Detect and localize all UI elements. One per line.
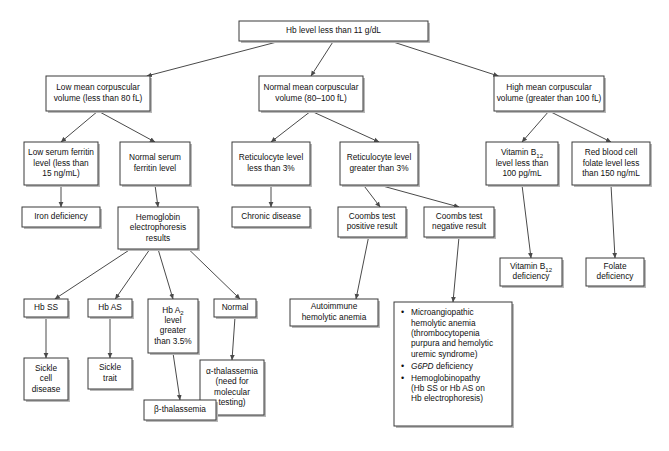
node-text-line: Hb level less than 11 g/dL	[286, 25, 381, 35]
node-root: Hb level less than 11 g/dL	[239, 21, 430, 43]
node-text-line: testing)	[218, 397, 245, 407]
node-text-line: (Hb SS or Hb AS on	[411, 383, 485, 393]
connector-hb_electro-to-hb_as	[115, 249, 150, 299]
node-text-line: Red blood cell	[585, 147, 638, 157]
connector-normal_mcv-to-retic_low	[271, 111, 311, 142]
node-text-line: Hemoglobin	[136, 212, 181, 222]
node-text-line: β-thalassemia	[154, 404, 206, 414]
node-text-line: electrophoresis	[130, 222, 186, 232]
node-folate_def: Folatedeficiency	[586, 258, 646, 288]
connector-root-to-high_mcv	[390, 41, 498, 76]
node-text-line: than 150 ng/mL	[582, 168, 640, 178]
connector-root-to-low_mcv	[147, 41, 281, 76]
connector-high_mcv-to-rbc_folate_low	[549, 111, 611, 142]
node-text-line: volume (less than 80 fL)	[54, 93, 143, 103]
flowchart-canvas: Hb level less than 11 g/dLLow mean corpu…	[0, 0, 669, 451]
node-text-line: Normal mean corpuscular	[264, 82, 359, 92]
node-sickle_cell: Sicklecelldisease	[24, 358, 70, 402]
node-text-line: folate level less	[583, 158, 640, 168]
node-coombs_neg_causes: •Microangiopathichemolytic anemia(thromb…	[394, 302, 514, 428]
node-hb_electro: Hemoglobinelectrophoresisresults	[118, 207, 200, 251]
node-text-line: purpura and hemolytic	[411, 338, 493, 348]
node-text-line: 100 pg/mL	[502, 168, 542, 178]
connector-hb_electro-to-hb_a2	[158, 249, 173, 299]
connector-normal_electro-to-alpha_thal	[232, 317, 235, 360]
node-text-line: level	[164, 315, 181, 325]
node-text-line: (thrombocytopenia	[411, 328, 480, 338]
node-b12_low: Vitamin B12level less than100 pg/mL	[486, 142, 560, 187]
connector-hb_electro-to-normal_electro	[188, 249, 240, 299]
node-high_mcv: High mean corpuscularvolume (greater tha…	[494, 76, 606, 113]
node-text-line: Low mean corpuscular	[56, 82, 140, 92]
bullet-dot-icon: •	[401, 361, 404, 371]
node-b12_def: Vitamin B12deficiency	[500, 258, 564, 288]
connector-retic_high-to-coombs_neg	[379, 185, 459, 207]
node-hb_ss: Hb SS	[24, 299, 70, 319]
node-text-line: G6PD deficiency	[411, 361, 474, 371]
node-iron_def: Iron deficiency	[22, 207, 102, 229]
node-coombs_neg: Coombs testnegative result	[424, 207, 496, 239]
node-text-line: Coombs test	[436, 211, 483, 221]
node-chronic_disease: Chronic disease	[232, 207, 312, 229]
node-text-line: Iron deficiency	[34, 211, 88, 221]
node-sickle_trait: Sickletrait	[88, 358, 134, 391]
node-text-line: Chronic disease	[241, 211, 301, 221]
node-normal_ferritin: Normal serumferritin level	[120, 142, 192, 187]
node-text-line: Microangiopathic	[411, 307, 474, 317]
connector-low_mcv-to-low_ferritin	[61, 111, 98, 142]
node-retic_low: Reticulocyte levelless than 3%	[232, 142, 312, 187]
connector-hb_a2-to-beta_thal	[173, 353, 180, 400]
node-text-line: than 3.5%	[154, 336, 192, 346]
node-text-line: (need for	[215, 376, 248, 386]
connector-low_mcv-to-normal_ferritin	[98, 111, 155, 142]
node-text-line: Coombs test	[349, 211, 396, 221]
bullet-dot-icon: •	[401, 307, 404, 317]
node-text-line: deficiency	[513, 271, 551, 281]
node-text-line: Normal	[222, 302, 249, 312]
connector-root-to-normal_mcv	[311, 41, 334, 76]
node-hb_as: Hb AS	[88, 299, 134, 319]
node-rbc_folate_low: Red blood cellfolate level lessthan 150 …	[572, 142, 652, 187]
connector-retic_high-to-coombs_pos	[363, 185, 380, 207]
node-text-line: Normal serum	[129, 152, 181, 162]
node-text-line: volume (80–100 fL)	[275, 93, 347, 103]
node-text-line: positive result	[347, 221, 398, 231]
node-normal_electro: Normal	[214, 299, 258, 319]
node-coombs_pos: Coombs testpositive result	[338, 207, 408, 239]
connector-high_mcv-to-b12_low	[522, 111, 549, 142]
node-text-line: Hb AS	[98, 302, 122, 312]
node-text-line: Reticulocyte level	[347, 152, 412, 162]
node-normal_mcv: Normal mean corpuscularvolume (80–100 fL…	[259, 76, 365, 113]
connector-coombs_pos-to-autoimmune	[356, 237, 369, 299]
bullet-dot-icon: •	[401, 373, 404, 383]
node-text-line: disease	[32, 384, 61, 394]
node-text-line: hemolytic anemia	[302, 312, 367, 322]
node-beta_thal: β-thalassemia	[144, 400, 218, 422]
node-text-line: Sickle	[35, 363, 58, 373]
node-text-line: level (less than	[33, 158, 89, 168]
node-text-line: Sickle	[99, 362, 122, 372]
connector-normal_mcv-to-retic_high	[311, 111, 379, 142]
node-layer: Hb level less than 11 g/dLLow mean corpu…	[22, 21, 652, 428]
node-text-line: negative result	[432, 221, 487, 231]
node-text-line: ferritin level	[134, 163, 177, 173]
node-text-line: 15 ng/mL)	[42, 168, 80, 178]
node-text-line: Folate	[603, 261, 626, 271]
node-text-line: deficiency	[597, 271, 635, 281]
node-text-line: Reticulocyte level	[239, 152, 304, 162]
connector-normal_ferritin-to-hb_electro	[155, 185, 158, 207]
connector-coombs_neg-to-coombs_neg_causes	[453, 237, 459, 302]
node-retic_high: Reticulocyte levelgreater than 3%	[340, 142, 420, 187]
node-text-line: molecular	[214, 387, 250, 397]
flowchart-anemia-evaluation: Hb level less than 11 g/dLLow mean corpu…	[0, 0, 669, 451]
node-text-line: uremic syndrome)	[411, 349, 478, 359]
node-autoimmune: Autoimmunehemolytic anemia	[290, 299, 380, 328]
node-text-line: hemolytic anemia	[411, 318, 476, 328]
connector-hb_electro-to-hb_ss	[55, 249, 131, 299]
node-text-line: less than 3%	[247, 163, 295, 173]
node-text-line: greater	[160, 325, 187, 335]
node-text-line: greater than 3%	[349, 163, 409, 173]
node-low_mcv: Low mean corpuscularvolume (less than 80…	[46, 76, 152, 113]
node-text-line: Low serum ferritin	[28, 147, 94, 157]
connector-b12_low-to-b12_def	[522, 185, 531, 258]
